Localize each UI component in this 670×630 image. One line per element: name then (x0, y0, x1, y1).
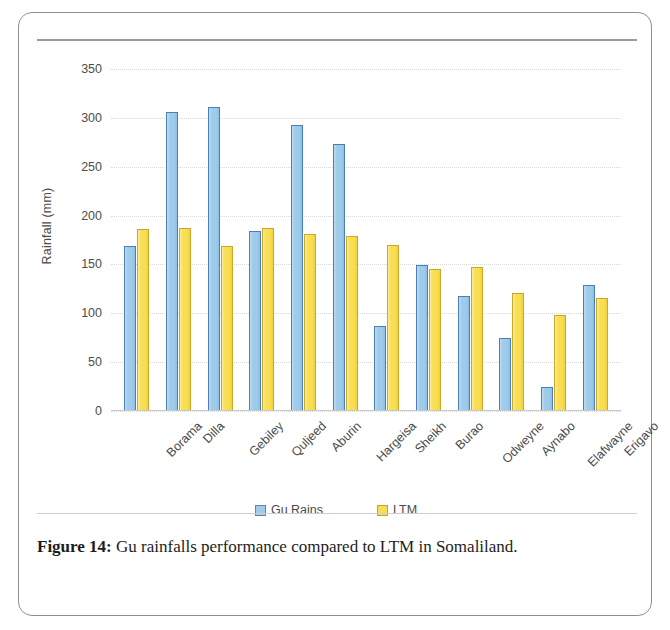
bar-gu-rains[interactable] (249, 231, 261, 411)
bar-gu-rains[interactable] (458, 296, 470, 411)
bar-group (491, 69, 533, 411)
bar-gu-rains[interactable] (583, 285, 595, 411)
x-axis-category-label: Hargeisa (374, 419, 419, 464)
x-axis-category-label: Sheikh (412, 419, 449, 456)
x-axis-category-label: Odweyne (500, 419, 547, 466)
figure-frame: Rainfall (mm) 350300250200150100500 Bora… (18, 12, 652, 616)
bar-group (408, 69, 450, 411)
bar-ltm[interactable] (221, 246, 233, 411)
x-axis-category-label: Dilla (200, 419, 227, 446)
legend-item[interactable]: Gu Rains (255, 503, 323, 517)
bar-gu-rains[interactable] (374, 326, 386, 411)
y-axis-tick-label: 250 (81, 160, 102, 174)
bar-gu-rains[interactable] (416, 265, 428, 411)
y-axis-tick-label: 350 (81, 62, 102, 76)
chart-legend: Gu RainsLTM (19, 503, 653, 517)
bar-group (366, 69, 408, 411)
legend-label: LTM (393, 503, 417, 517)
bar-gu-rains[interactable] (541, 387, 553, 411)
y-axis-tick-label: 50 (88, 355, 102, 369)
bar-gu-rains[interactable] (208, 107, 220, 411)
bar-ltm[interactable] (346, 236, 358, 411)
x-axis-category-label: Aynabo (538, 419, 578, 459)
x-axis-category-label: Burao (452, 419, 485, 452)
bar-group (116, 69, 158, 411)
bar-ltm[interactable] (429, 269, 441, 411)
bar-gu-rains[interactable] (333, 144, 345, 411)
y-axis-tick-label: 150 (81, 257, 102, 271)
plot-area: 350300250200150100500 (111, 69, 621, 411)
bar-group (324, 69, 366, 411)
y-axis-tick-label: 100 (81, 306, 102, 320)
legend-item[interactable]: LTM (377, 503, 417, 517)
bar-groups (111, 69, 621, 411)
top-divider (37, 39, 637, 41)
bar-group (449, 69, 491, 411)
bar-ltm[interactable] (471, 267, 483, 411)
bar-ltm[interactable] (596, 298, 608, 411)
bar-gu-rains[interactable] (166, 112, 178, 411)
x-axis-category-label: Borama (164, 419, 205, 460)
bar-gu-rains[interactable] (499, 338, 511, 411)
bar-group (199, 69, 241, 411)
bar-ltm[interactable] (137, 229, 149, 411)
y-axis-tick-label: 200 (81, 209, 102, 223)
bar-ltm[interactable] (554, 315, 566, 411)
figure-caption: Figure 14: Gu rainfalls performance comp… (37, 535, 639, 559)
figure-caption-text: Gu rainfalls performance compared to LTM… (112, 537, 518, 556)
legend-label: Gu Rains (271, 503, 323, 517)
figure-caption-label: Figure 14: (37, 537, 112, 556)
chart-container: Rainfall (mm) 350300250200150100500 Bora… (19, 47, 653, 507)
y-axis-title: Rainfall (mm) (40, 156, 54, 296)
x-axis-category-label: Quljeed (288, 419, 328, 459)
bar-group (241, 69, 283, 411)
x-axis-labels: BoramaDillaGebileyQuljeedAburinHargeisaS… (111, 413, 621, 505)
y-axis-tick-label: 0 (95, 404, 102, 418)
bar-ltm[interactable] (387, 245, 399, 411)
bar-gu-rains[interactable] (291, 125, 303, 411)
bar-ltm[interactable] (262, 228, 274, 411)
bar-group (283, 69, 325, 411)
bar-ltm[interactable] (179, 228, 191, 411)
bar-ltm[interactable] (512, 293, 524, 411)
bar-group (158, 69, 200, 411)
x-axis-line (111, 410, 621, 411)
bar-group (533, 69, 575, 411)
x-axis-category-label: Aburin (328, 419, 363, 454)
bar-gu-rains[interactable] (124, 246, 136, 411)
caption-divider (37, 513, 637, 514)
x-axis-category-label: Gebiley (247, 419, 287, 459)
y-axis-tick-label: 300 (81, 111, 102, 125)
bar-ltm[interactable] (304, 234, 316, 411)
bar-group (574, 69, 616, 411)
